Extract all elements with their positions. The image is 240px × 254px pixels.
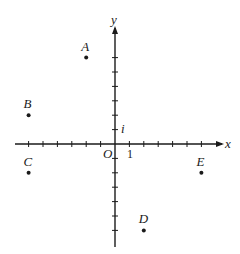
point-c: C xyxy=(24,154,33,175)
point-label: D xyxy=(138,211,149,226)
x-unit-label: 1 xyxy=(127,147,133,161)
point-dot xyxy=(27,113,31,117)
point-dot xyxy=(84,56,88,60)
point-label: C xyxy=(24,154,33,169)
y-unit-label: i xyxy=(121,121,125,136)
axes xyxy=(15,28,222,247)
point-label: E xyxy=(195,154,204,169)
point-label: A xyxy=(80,39,89,54)
axis-labels: x y O 1 i xyxy=(103,12,231,161)
x-axis-label: x xyxy=(224,136,231,151)
point-label: B xyxy=(24,96,32,111)
point-a: A xyxy=(80,39,89,60)
point-e: E xyxy=(195,154,204,175)
point-b: B xyxy=(24,96,32,117)
point-dot xyxy=(142,228,146,232)
point-dot xyxy=(199,171,203,175)
origin-label: O xyxy=(103,146,113,161)
points: ABCDE xyxy=(24,39,205,233)
y-axis-label: y xyxy=(109,12,117,27)
complex-plane-diagram: x y O 1 i ABCDE xyxy=(0,0,240,254)
point-dot xyxy=(27,171,31,175)
point-d: D xyxy=(138,211,149,232)
